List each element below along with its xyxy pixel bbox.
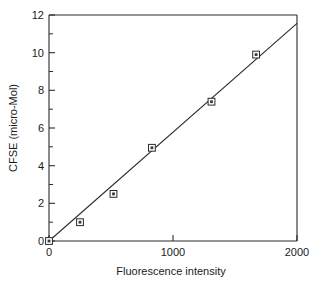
y-tick-label-12: 12 — [32, 9, 44, 21]
y-tick-label-10: 10 — [32, 47, 44, 59]
y-tick-label-2: 2 — [38, 197, 44, 209]
data-point — [253, 51, 260, 58]
chart-figure: 0 2 4 6 8 10 12 0 1000 2000 Fluorescence… — [0, 0, 322, 287]
x-axis-major-ticks — [49, 235, 297, 241]
x-tick-label-1000: 1000 — [161, 246, 185, 258]
data-point — [208, 98, 215, 105]
y-tick-label-6: 6 — [38, 122, 44, 134]
y-axis-major-ticks — [49, 15, 55, 241]
y-tick-label-0: 0 — [38, 235, 44, 247]
scatter-plot: 0 2 4 6 8 10 12 0 1000 2000 Fluorescence… — [0, 0, 322, 287]
plot-frame — [49, 15, 297, 241]
data-point — [110, 191, 117, 198]
y-axis-title: CFSE (micro-Mol) — [7, 84, 19, 172]
data-point — [149, 144, 156, 151]
data-point — [46, 238, 53, 245]
y-tick-label-8: 8 — [38, 84, 44, 96]
data-point — [77, 219, 84, 226]
x-tick-label-2000: 2000 — [285, 246, 309, 258]
x-axis-title: Fluorescence intensity — [116, 265, 226, 277]
x-axis-tick-labels: 0 1000 2000 — [46, 246, 309, 258]
y-axis-tick-labels: 0 2 4 6 8 10 12 — [32, 9, 44, 247]
y-tick-label-4: 4 — [38, 160, 44, 172]
x-tick-label-0: 0 — [46, 246, 52, 258]
